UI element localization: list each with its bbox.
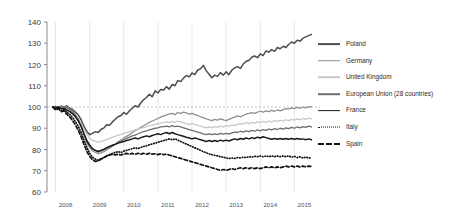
- legend-item-germany[interactable]: Germany: [318, 53, 449, 70]
- svg-text:70: 70: [32, 167, 41, 176]
- svg-text:100: 100: [28, 103, 42, 112]
- y-tick-labels: 60708090100110120130140: [28, 18, 42, 197]
- svg-text:120: 120: [28, 61, 42, 70]
- legend-label: Spain: [346, 141, 362, 147]
- svg-text:2011: 2011: [161, 201, 175, 208]
- legend-label: France: [346, 107, 366, 113]
- svg-text:2008: 2008: [59, 201, 73, 208]
- svg-text:2013: 2013: [229, 201, 243, 208]
- legend-item-italy[interactable]: Italy: [318, 119, 449, 136]
- x-tick-labels: 20082009201020112012201320142015: [59, 201, 312, 208]
- legend-label: European Union (28 countries): [346, 91, 433, 97]
- svg-text:2014: 2014: [263, 201, 277, 208]
- legend-label: United Kingdom: [346, 74, 391, 80]
- legend-swatch-icon: [318, 122, 340, 132]
- legend-swatch-icon: [318, 56, 340, 66]
- legend-label: Germany: [346, 58, 372, 64]
- svg-text:130: 130: [28, 39, 42, 48]
- legend-swatch-icon: [318, 72, 340, 82]
- svg-text:90: 90: [32, 124, 41, 133]
- legend-swatch-icon: [318, 106, 340, 116]
- svg-text:110: 110: [28, 82, 41, 91]
- chart-container: 60708090100110120130140 2008200920102011…: [0, 0, 449, 223]
- chart-legend: PolandGermanyUnited KingdomEuropean Unio…: [318, 36, 449, 152]
- svg-text:2010: 2010: [127, 201, 141, 208]
- legend-item-spain[interactable]: Spain: [318, 136, 449, 153]
- series-line-united-kingdom: [53, 107, 312, 143]
- y-axis: [44, 22, 47, 192]
- legend-item-poland[interactable]: Poland: [318, 36, 449, 53]
- legend-swatch-icon: [318, 139, 340, 149]
- legend-swatch-icon: [318, 89, 340, 99]
- svg-text:140: 140: [28, 18, 42, 27]
- legend-swatch-icon: [318, 39, 340, 49]
- legend-item-france[interactable]: France: [318, 102, 449, 119]
- legend-label: Poland: [346, 41, 366, 47]
- legend-label: Italy: [346, 124, 358, 130]
- svg-text:2009: 2009: [93, 201, 107, 208]
- svg-text:2012: 2012: [195, 201, 209, 208]
- svg-text:60: 60: [32, 188, 41, 197]
- legend-item-european-union-28-countries[interactable]: European Union (28 countries): [318, 86, 449, 103]
- series-line-poland: [53, 34, 312, 134]
- svg-text:2015: 2015: [298, 201, 312, 208]
- legend-item-united-kingdom[interactable]: United Kingdom: [318, 69, 449, 86]
- data-series-group: [53, 34, 312, 170]
- svg-text:80: 80: [32, 146, 41, 155]
